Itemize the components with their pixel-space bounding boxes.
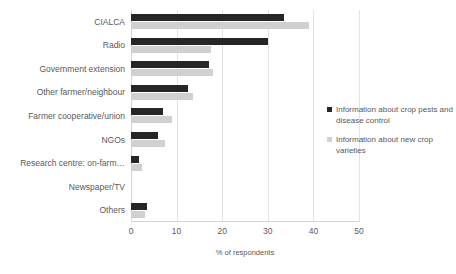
- bar-series-1: [131, 116, 172, 123]
- bar-series-0: [131, 14, 284, 21]
- bar-group: [131, 151, 359, 175]
- category-label: Radio: [103, 40, 125, 50]
- x-tick-40: 40: [298, 226, 328, 236]
- bar-series-0: [131, 108, 163, 115]
- legend-entry[interactable]: Information about new crop varieties: [327, 134, 453, 156]
- bar-group: [131, 57, 359, 81]
- bar-group: [131, 34, 359, 58]
- bar-series-0: [131, 203, 147, 210]
- category-label: CIALCA: [94, 17, 125, 27]
- bar-group: [131, 104, 359, 128]
- category-label: Others: [99, 205, 125, 215]
- x-tick-0: 0: [116, 226, 146, 236]
- x-tick-30: 30: [253, 226, 283, 236]
- bar-group: [131, 128, 359, 152]
- x-tick-10: 10: [162, 226, 192, 236]
- bar-series-1: [131, 22, 309, 29]
- bar-series-1: [131, 140, 165, 147]
- bar-group: [131, 10, 359, 34]
- bar-group: [131, 175, 359, 199]
- bar-series-1: [131, 69, 213, 76]
- category-label: Research centre: on-farm…: [20, 158, 125, 168]
- bar-series-0: [131, 38, 268, 45]
- bar-series-1: [131, 211, 145, 218]
- legend-swatch-icon: [327, 137, 332, 142]
- category-label: NGOs: [101, 135, 125, 145]
- bar-group: [131, 198, 359, 222]
- bar-series-1: [131, 164, 142, 171]
- legend-label: Information about crop pests and disease…: [336, 104, 453, 126]
- x-tick-20: 20: [207, 226, 237, 236]
- category-label: Farmer cooperative/union: [28, 111, 125, 121]
- bar-group: [131, 81, 359, 105]
- x-axis-title: % of respondents: [131, 248, 359, 257]
- category-label: Newspaper/TV: [69, 182, 125, 192]
- category-label: Government extension: [39, 64, 125, 74]
- bar-series-1: [131, 93, 193, 100]
- bar-series-0: [131, 85, 188, 92]
- chart-legend: Information about crop pests and disease…: [327, 104, 453, 164]
- x-tick-50: 50: [344, 226, 374, 236]
- legend-entry[interactable]: Information about crop pests and disease…: [327, 104, 453, 126]
- legend-swatch-icon: [327, 107, 332, 112]
- bar-series-0: [131, 132, 158, 139]
- plot-area: [131, 10, 359, 222]
- bar-chart-figure: CIALCARadioGovernment extensionOther far…: [0, 0, 456, 274]
- bar-series-0: [131, 61, 209, 68]
- bar-series-0: [131, 156, 139, 163]
- bar-series-1: [131, 46, 211, 53]
- legend-label: Information about new crop varieties: [336, 134, 453, 156]
- category-label: Other farmer/neighbour: [37, 87, 125, 97]
